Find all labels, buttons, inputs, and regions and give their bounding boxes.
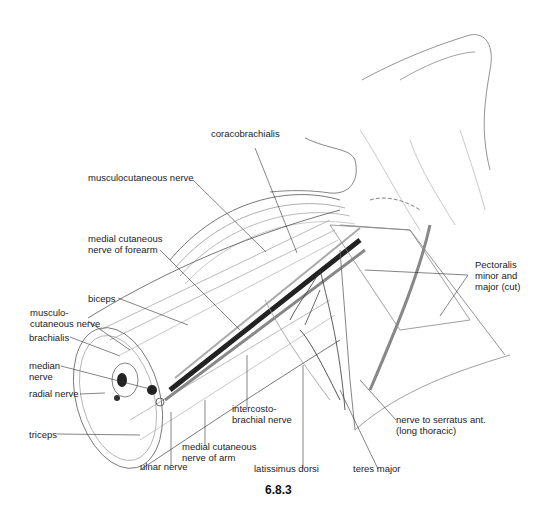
label-pectoralis: Pectoralis minor and major (cut) <box>475 259 520 292</box>
shoulder-outline <box>362 35 491 170</box>
label-musculocutaneous-nerve-left: musculo- cutaneous nerve <box>30 307 100 329</box>
anatomical-illustration <box>0 0 550 522</box>
label-musculocutaneous-nerve-top: musculocutaneous nerve <box>88 172 194 183</box>
label-teres-major: teres major <box>353 463 401 474</box>
arm-upper-contour <box>88 210 340 318</box>
label-biceps: biceps <box>88 293 115 304</box>
label-triceps: triceps <box>29 429 57 440</box>
neurovascular-bundle <box>170 240 360 390</box>
label-intercostobrachial-nerve: intercosto- brachial nerve <box>232 403 292 425</box>
label-ulnar-nerve: ulnar nerve <box>140 461 188 472</box>
label-medial-cutaneous-nerve-forearm: medial cutaneous nerve of forearm <box>88 233 162 255</box>
label-radial-nerve: radial nerve <box>29 388 79 399</box>
figure-number: 6.8.3 <box>265 483 292 497</box>
label-nerve-to-serratus: nerve to serratus ant. (long thoracic) <box>396 414 486 436</box>
chin-outline <box>270 138 356 193</box>
label-median-nerve: median nerve <box>29 360 60 382</box>
label-coracobrachialis: coracobrachialis <box>211 128 280 139</box>
label-medial-cutaneous-nerve-arm: medial cutaneous nerve of arm <box>182 441 256 463</box>
label-latissimus-dorsi: latissimus dorsi <box>254 463 319 474</box>
label-brachialis: brachialis <box>29 332 69 343</box>
